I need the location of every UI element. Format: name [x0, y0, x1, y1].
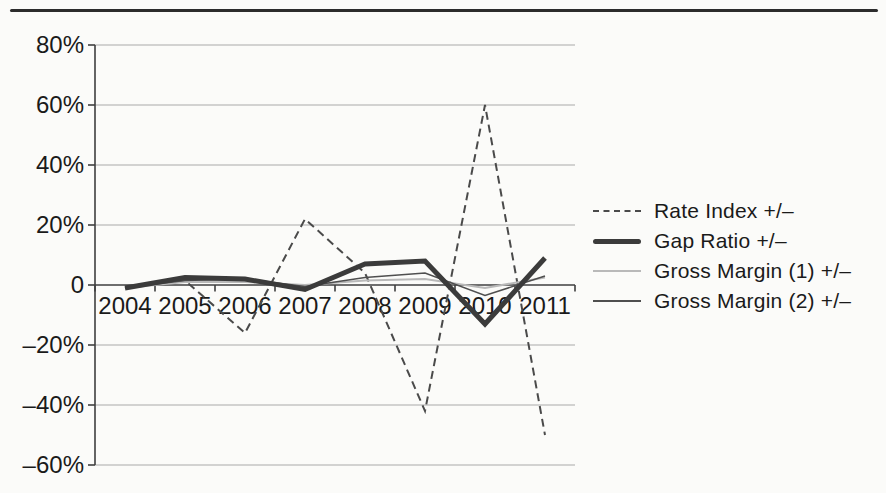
legend-item-gross-margin-1: Gross Margin (1) +/– — [593, 256, 851, 286]
y-axis-label: –60% — [23, 451, 84, 478]
y-axis-label: 60% — [36, 91, 84, 118]
dashed-line-swatch-icon — [593, 210, 641, 212]
y-axis-label: 80% — [36, 31, 84, 58]
series-line-rate-index — [125, 105, 545, 435]
x-axis-label: 2006 — [218, 292, 271, 319]
legend-label: Rate Index +/– — [654, 199, 794, 223]
y-axis-label: 40% — [36, 151, 84, 178]
legend-item-gap-ratio: Gap Ratio +/– — [593, 226, 851, 256]
light-line-swatch-icon — [593, 270, 641, 272]
x-axis-label: 2004 — [98, 292, 151, 319]
y-axis-label: 20% — [36, 211, 84, 238]
y-axis-label: –40% — [23, 391, 84, 418]
legend-item-rate-index: Rate Index +/– — [593, 196, 851, 226]
thick-line-swatch-icon — [593, 239, 641, 244]
legend-label: Gross Margin (2) +/– — [654, 289, 851, 313]
x-axis-label: 2007 — [278, 292, 331, 319]
chart-legend: Rate Index +/– Gap Ratio +/– Gross Margi… — [593, 196, 851, 316]
y-axis-label: –20% — [23, 331, 84, 358]
figure-page: 80%60%40%20%0–20%–40%–60%200420052006200… — [0, 0, 886, 493]
y-axis-label: 0 — [71, 271, 84, 298]
legend-label: Gross Margin (1) +/– — [654, 259, 851, 283]
x-axis-label: 2011 — [519, 292, 571, 319]
thin-line-swatch-icon — [593, 300, 641, 302]
legend-label: Gap Ratio +/– — [654, 229, 787, 253]
legend-item-gross-margin-2: Gross Margin (2) +/– — [593, 286, 851, 316]
